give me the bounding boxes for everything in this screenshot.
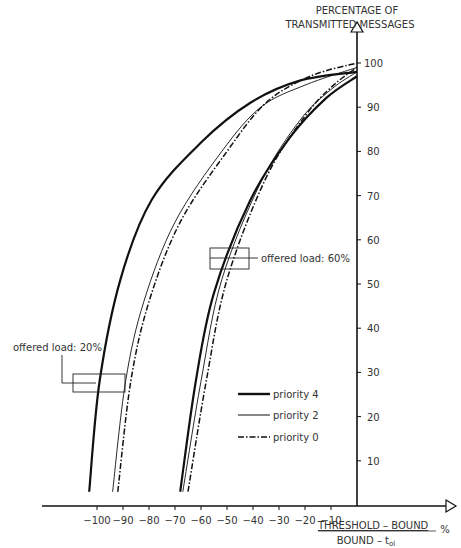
chart-canvas: −100−90−80−70−60−50−40−30−20−10 10203040…: [0, 0, 461, 548]
x-tick-label: −70: [164, 515, 185, 526]
y-axis-label-line1: PERCENTAGE OF: [316, 5, 399, 16]
y-tick-label: 70: [367, 191, 380, 202]
y-tick-label: 40: [367, 323, 380, 334]
legend-label-priority-0: priority 0: [273, 432, 319, 443]
y-tick-label: 30: [367, 367, 380, 378]
annotation-60-text: offered load: 60%: [261, 253, 350, 264]
y-tick-label: 50: [367, 279, 380, 290]
y-tick-label: 90: [367, 102, 380, 113]
x-tick-label: −90: [112, 515, 133, 526]
y-tick-label: 80: [367, 146, 380, 157]
annotation-load-20: offered load: 20%: [13, 342, 125, 392]
x-tick-label: −80: [138, 515, 159, 526]
y-tick-label: 100: [364, 58, 383, 69]
curve-priority-4-load-20: [89, 72, 357, 492]
legend-label-priority-4: priority 4: [273, 389, 319, 400]
legend: priority 4 priority 2 priority 0: [238, 389, 319, 443]
x-ticks: −100−90−80−70−60−50−40−30−20−10: [83, 506, 341, 526]
x-axis-arrow-icon: [446, 500, 456, 512]
x-tick-label: −40: [242, 515, 263, 526]
x-axis-label-numerator: THRESHOLD – BOUND: [317, 520, 429, 531]
y-tick-label: 60: [367, 235, 380, 246]
x-tick-label: −50: [216, 515, 237, 526]
y-tick-label: 20: [367, 412, 380, 423]
curve-priority-0-load-20: [118, 63, 357, 492]
curve-priority-2-load-20: [113, 67, 357, 491]
curve-priority-4-load-60: [180, 76, 357, 491]
y-ticks: 102030405060708090100: [357, 58, 383, 467]
y-tick-label: 10: [367, 456, 380, 467]
curves: [89, 63, 357, 492]
x-axis-label-denominator: BOUND – tol: [337, 535, 396, 548]
x-tick-label: −100: [83, 515, 110, 526]
annotation-20-text: offered load: 20%: [13, 342, 102, 353]
x-tick-label: −60: [190, 515, 211, 526]
x-axis-label-unit: %: [440, 524, 450, 535]
legend-label-priority-2: priority 2: [273, 410, 319, 421]
x-tick-label: −30: [268, 515, 289, 526]
y-axis-label-line2: TRANSMITTED MESSAGES: [284, 19, 414, 30]
x-tick-label: −20: [294, 515, 315, 526]
